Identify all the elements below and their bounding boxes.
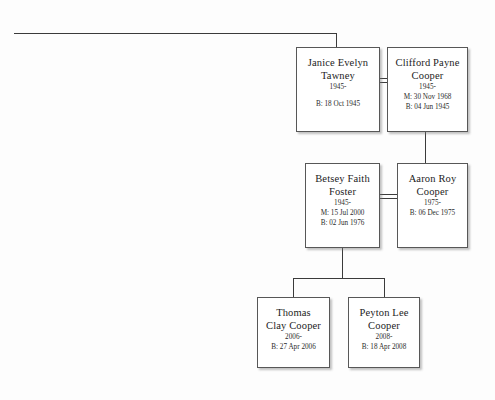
person-box-clifford[interactable]: Clifford Payne Cooper 1945- M: 30 Nov 19…	[387, 47, 468, 132]
family-tree-chart: Janice Evelyn Tawney 1945- B: 18 Oct 194…	[0, 0, 495, 400]
person-box-thomas[interactable]: Thomas Clay Cooper 2006- B: 27 Apr 2006	[257, 297, 330, 368]
person-box-aaron[interactable]: Aaron Roy Cooper 1975- B: 06 Dec 1975	[397, 163, 468, 248]
person-name: Clifford Payne Cooper	[395, 57, 459, 82]
children-stem-line	[342, 248, 343, 279]
ancestor-horizontal-line	[14, 33, 337, 34]
person-name: Aaron Roy Cooper	[409, 173, 457, 198]
ancestor-drop-line	[336, 33, 337, 48]
descent-line-clifford-aaron	[425, 132, 426, 164]
person-years: 2008-	[376, 333, 393, 342]
person-box-janice[interactable]: Janice Evelyn Tawney 1945- B: 18 Oct 194…	[296, 47, 380, 132]
child-drop-line-thomas	[293, 278, 294, 298]
person-box-betsey[interactable]: Betsey Faith Foster 1945- M: 15 Jul 2000…	[305, 163, 380, 248]
person-years: 1945-	[334, 199, 351, 208]
person-facts: M: 30 Nov 1968 B: 04 Jun 1945	[404, 93, 452, 112]
person-years: 1975-	[424, 199, 441, 208]
person-facts: B: 18 Apr 2008	[362, 343, 407, 353]
person-facts: B: 27 Apr 2006	[271, 343, 316, 353]
person-name: Betsey Faith Foster	[315, 173, 370, 198]
person-years: 2006-	[285, 333, 302, 342]
person-facts: B: 18 Oct 1945	[316, 100, 360, 110]
person-years: 1945-	[330, 83, 347, 92]
person-name: Thomas Clay Cooper	[266, 307, 321, 332]
person-name: Janice Evelyn Tawney	[308, 57, 369, 82]
siblings-horizontal-line	[293, 278, 384, 279]
person-facts: M: 15 Jul 2000 B: 02 Jun 1976	[321, 209, 365, 228]
child-drop-line-peyton	[384, 278, 385, 298]
person-facts: B: 06 Dec 1975	[410, 209, 455, 219]
person-years: 1945-	[419, 83, 436, 92]
person-name: Peyton Lee Cooper	[359, 307, 408, 332]
person-box-peyton[interactable]: Peyton Lee Cooper 2008- B: 18 Apr 2008	[348, 297, 420, 368]
marriage-connector-betsey-aaron	[380, 194, 397, 199]
